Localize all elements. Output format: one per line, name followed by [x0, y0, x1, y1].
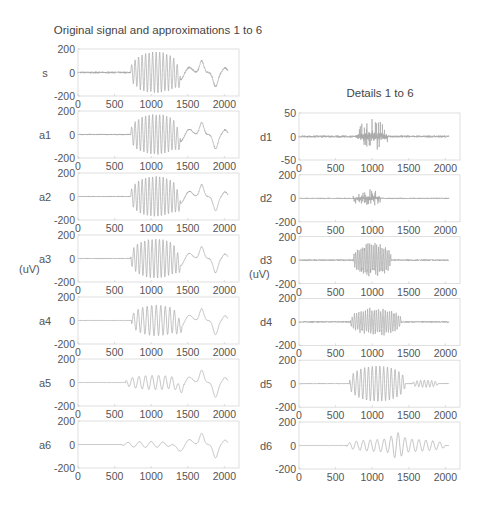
x-tick-label: 1000: [140, 346, 164, 358]
y-tick-label: 200: [57, 105, 75, 117]
panel-d3: -20002000500100015002000d3: [260, 231, 460, 298]
panel-a3: -20002000500100015002000a3: [39, 229, 239, 296]
signal-line-a1: [78, 114, 228, 154]
panel-d2: -20002000500100015002000d2: [260, 169, 460, 236]
x-tick-label: 1000: [361, 286, 385, 298]
x-tick-label: 500: [106, 408, 124, 420]
panel-label: a2: [39, 191, 51, 203]
panel-label: a3: [39, 253, 51, 265]
x-tick-label: 1000: [140, 408, 164, 420]
x-tick-label: 1500: [176, 408, 200, 420]
panel-a1: -20002000500100015002000a1: [39, 105, 239, 172]
y-tick-label: 200: [278, 354, 296, 366]
panel-label: d5: [260, 378, 272, 390]
y-tick-label: 0: [290, 131, 296, 143]
x-tick-label: 1000: [361, 162, 385, 174]
x-tick-label: 2000: [434, 224, 458, 236]
x-tick-label: 2000: [213, 408, 237, 420]
x-tick-label: 1500: [176, 160, 200, 172]
y-tick-label: -200: [54, 152, 75, 164]
x-tick-label: 1500: [176, 222, 200, 234]
x-tick-label: 0: [75, 284, 81, 296]
signal-line-d5: [299, 366, 449, 401]
x-tick-label: 500: [327, 409, 345, 421]
x-tick-label: 1500: [397, 224, 421, 236]
signal-line-a3: [78, 239, 228, 278]
panel-label: a6: [39, 439, 51, 451]
y-tick-label: -200: [275, 401, 296, 413]
panel-label: d6: [260, 440, 272, 452]
x-tick-label: 500: [327, 224, 345, 236]
y-tick-label: -200: [275, 278, 296, 290]
y-tick-label: -200: [54, 90, 75, 102]
x-tick-label: 0: [75, 160, 81, 172]
y-tick-label: -200: [275, 339, 296, 351]
x-tick-label: 1000: [140, 470, 164, 482]
panel-d5: -20002000500100015002000d5: [260, 354, 460, 421]
left-panels: -20002000500100015002000s-20002000500100…: [39, 43, 239, 482]
y-tick-label: -200: [54, 276, 75, 288]
y-tick-label: 0: [69, 439, 75, 451]
x-tick-label: 500: [106, 346, 124, 358]
right-y-unit-label: (uV): [249, 268, 270, 280]
y-tick-label: 200: [278, 231, 296, 243]
panel-label: a1: [39, 129, 51, 141]
left-y-unit-label: (uV): [19, 263, 40, 275]
signal-line-a6: [78, 433, 228, 458]
y-tick-label: 0: [69, 315, 75, 327]
right-panels: -500500500100015002000d1-200020005001000…: [260, 107, 460, 483]
x-tick-label: 2000: [213, 284, 237, 296]
x-tick-label: 2000: [434, 286, 458, 298]
x-tick-label: 500: [327, 471, 345, 483]
y-tick-label: 200: [57, 353, 75, 365]
y-tick-label: 0: [290, 316, 296, 328]
x-tick-label: 2000: [434, 471, 458, 483]
x-tick-label: 1500: [397, 471, 421, 483]
y-tick-label: 200: [278, 292, 296, 304]
y-tick-label: -200: [54, 400, 75, 412]
x-tick-label: 2000: [213, 160, 237, 172]
x-tick-label: 500: [106, 284, 124, 296]
x-tick-label: 1500: [397, 162, 421, 174]
panel-d4: -20002000500100015002000d4: [260, 292, 460, 359]
x-tick-label: 1500: [176, 284, 200, 296]
x-tick-label: 0: [75, 408, 81, 420]
x-tick-label: 0: [296, 162, 302, 174]
y-tick-label: 0: [69, 129, 75, 141]
x-tick-label: 2000: [213, 470, 237, 482]
y-tick-label: 200: [57, 229, 75, 241]
signal-line-a4: [78, 305, 228, 336]
x-tick-label: 0: [296, 347, 302, 359]
x-tick-label: 1000: [361, 409, 385, 421]
signal-line-s: [78, 52, 228, 93]
right-chart-title: Details 1 to 6: [346, 87, 413, 99]
x-tick-label: 0: [75, 98, 81, 110]
y-tick-label: 200: [278, 416, 296, 428]
signal-line-d2: [299, 189, 449, 205]
panel-label: d4: [260, 316, 272, 328]
x-tick-label: 1500: [397, 409, 421, 421]
panel-a5: -20002000500100015002000a5: [39, 353, 239, 420]
x-tick-label: 500: [106, 98, 124, 110]
x-tick-label: 1000: [140, 222, 164, 234]
signal-line-d1: [299, 119, 449, 149]
y-tick-label: 0: [290, 192, 296, 204]
y-tick-label: 200: [57, 291, 75, 303]
panel-s: -20002000500100015002000s: [42, 43, 239, 110]
y-tick-label: -200: [275, 463, 296, 475]
x-tick-label: 2000: [213, 98, 237, 110]
y-tick-label: 50: [284, 107, 296, 119]
panel-a4: -20002000500100015002000a4: [39, 291, 239, 358]
y-tick-label: -200: [54, 214, 75, 226]
y-tick-label: 200: [57, 167, 75, 179]
y-tick-label: 200: [57, 43, 75, 55]
y-tick-label: -200: [275, 216, 296, 228]
x-tick-label: 500: [327, 286, 345, 298]
x-tick-label: 1500: [176, 98, 200, 110]
panel-d6: -20002000500100015002000d6: [260, 416, 460, 483]
wavelet-decomposition-figure: Original signal and approximations 1 to …: [0, 0, 482, 506]
x-tick-label: 1000: [361, 224, 385, 236]
x-tick-label: 2000: [213, 346, 237, 358]
left-chart-title: Original signal and approximations 1 to …: [54, 24, 262, 36]
y-tick-label: 0: [290, 440, 296, 452]
